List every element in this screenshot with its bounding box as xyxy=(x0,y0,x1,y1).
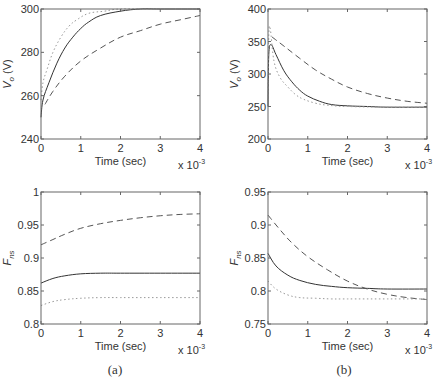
y-axis-label: Vo (V) xyxy=(1,59,16,89)
x-multiplier-label: x 10-3 xyxy=(178,343,205,356)
x-multiplier-label: x 10-3 xyxy=(178,158,205,171)
y-tick-label: 0.95 xyxy=(245,186,266,198)
y-tick-label: 0.9 xyxy=(251,219,266,231)
x-tick-label: 3 xyxy=(384,327,390,339)
series-dotted-line xyxy=(41,9,200,100)
y-tick-label: 0.8 xyxy=(251,285,266,297)
y-axis-label: Vo (V) xyxy=(228,59,243,89)
y-tick-label: 240 xyxy=(21,133,39,145)
x-tick-label: 4 xyxy=(197,142,203,154)
series-dotted-line xyxy=(268,281,427,299)
x-tick-label: 1 xyxy=(78,142,84,154)
x-tick-label: 2 xyxy=(117,142,123,154)
chart-panel-b-bottom: 012340.750.80.850.90.95Time (sec)x 10-3F… xyxy=(228,186,432,356)
x-tick-label: 1 xyxy=(305,142,311,154)
x-axis-label: Time (sec) xyxy=(322,340,374,352)
x-tick-label: 3 xyxy=(384,142,390,154)
x-tick-label: 3 xyxy=(157,142,163,154)
x-tick-label: 4 xyxy=(424,327,430,339)
y-tick-label: 350 xyxy=(248,36,266,48)
axes-frame xyxy=(41,9,200,139)
x-multiplier-label: x 10-3 xyxy=(405,343,432,356)
series-solid-line xyxy=(41,273,200,283)
y-tick-label: 1 xyxy=(33,186,39,198)
x-axis-label: Time (sec) xyxy=(95,340,147,352)
x-axis-label: Time (sec) xyxy=(95,155,147,167)
series-dashed-line xyxy=(45,16,200,105)
y-tick-label: 400 xyxy=(248,3,266,15)
chart-panel-a-bottom: 012340.80.850.90.951Time (sec)x 10-3Fns xyxy=(1,186,205,356)
axes-frame xyxy=(268,9,427,139)
y-tick-label: 300 xyxy=(21,3,39,15)
y-tick-label: 0.8 xyxy=(24,318,39,330)
chart-panel-b-top: 01234200250300350400Time (sec)x 10-3Vo (… xyxy=(228,3,432,171)
series-dotted-line xyxy=(268,26,427,107)
x-tick-label: 2 xyxy=(344,327,350,339)
figure: 01234240260280300Time (sec)x 10-3Vo (V)0… xyxy=(0,0,433,384)
axes-frame xyxy=(41,192,200,324)
y-axis-label: Fns xyxy=(228,250,243,265)
caption-a: (a) xyxy=(108,362,122,377)
series-solid-line xyxy=(268,45,427,108)
series-dotted-line xyxy=(41,298,200,306)
y-axis-label: Fns xyxy=(1,250,16,265)
x-multiplier-label: x 10-3 xyxy=(405,158,432,171)
axes-frame xyxy=(268,192,427,324)
y-tick-label: 300 xyxy=(248,68,266,80)
x-axis-label: Time (sec) xyxy=(322,155,374,167)
y-tick-label: 280 xyxy=(21,46,39,58)
series-dashed-line xyxy=(41,214,200,245)
y-tick-label: 0.9 xyxy=(24,252,39,264)
x-tick-label: 3 xyxy=(157,327,163,339)
x-tick-label: 2 xyxy=(344,142,350,154)
y-tick-label: 260 xyxy=(21,90,39,102)
x-tick-label: 2 xyxy=(117,327,123,339)
y-tick-label: 250 xyxy=(248,101,266,113)
y-tick-label: 200 xyxy=(248,133,266,145)
x-tick-label: 4 xyxy=(197,327,203,339)
series-dashed-line xyxy=(268,215,427,299)
series-solid-line xyxy=(268,253,427,289)
chart-panel-a-top: 01234240260280300Time (sec)x 10-3Vo (V) xyxy=(1,3,205,171)
x-tick-label: 1 xyxy=(78,327,84,339)
series-solid-line xyxy=(41,9,200,118)
y-tick-label: 0.75 xyxy=(245,318,266,330)
series-dashed-line xyxy=(272,37,427,103)
y-tick-label: 0.85 xyxy=(245,252,266,264)
y-tick-label: 0.85 xyxy=(18,285,39,297)
x-tick-label: 4 xyxy=(424,142,430,154)
y-tick-label: 0.95 xyxy=(18,219,39,231)
caption-b: (b) xyxy=(336,362,351,377)
x-tick-label: 1 xyxy=(305,327,311,339)
